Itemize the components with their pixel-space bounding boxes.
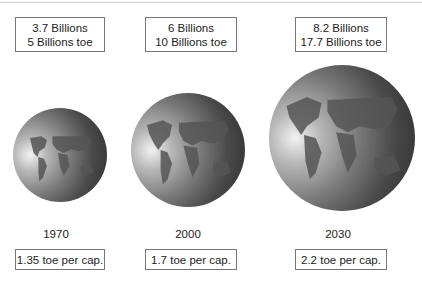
population-energy-box-2030: 8.2 Billions 17.7 Billions toe	[295, 17, 387, 52]
population-label: 8.2 Billions	[296, 21, 386, 35]
energy-label: 10 Billions toe	[146, 35, 236, 49]
energy-label: 5 Billions toe	[16, 35, 104, 49]
population-label: 6 Billions	[146, 21, 236, 35]
year-label-1970: 1970	[26, 228, 86, 240]
per-capita-box-2000: 1.7 toe per cap.	[145, 249, 237, 270]
per-capita-box-1970: 1.35 toe per cap.	[15, 249, 105, 270]
year-label-2030: 2030	[308, 228, 368, 240]
year-label-2000: 2000	[158, 228, 218, 240]
top-divider	[0, 2, 422, 3]
globe-icon	[269, 65, 415, 211]
population-energy-box-1970: 3.7 Billions 5 Billions toe	[15, 17, 105, 52]
globe-icon	[131, 93, 245, 207]
globe-icon	[13, 108, 107, 202]
population-label: 3.7 Billions	[16, 21, 104, 35]
population-energy-box-2000: 6 Billions 10 Billions toe	[145, 17, 237, 52]
per-capita-label: 1.7 toe per cap.	[146, 253, 236, 267]
energy-label: 17.7 Billions toe	[296, 35, 386, 49]
per-capita-label: 1.35 toe per cap.	[16, 253, 104, 267]
per-capita-label: 2.2 toe per cap.	[296, 253, 386, 267]
per-capita-box-2030: 2.2 toe per cap.	[295, 249, 387, 270]
